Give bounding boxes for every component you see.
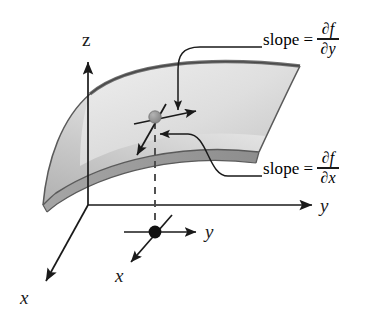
- plane-point-dot: [149, 226, 162, 239]
- surface-sheet: [43, 62, 300, 212]
- surface-point-dot: [149, 111, 161, 123]
- plane-point-y-label: y: [205, 222, 213, 241]
- equals-sign-bottom: =: [303, 159, 313, 179]
- plane-point-group: [124, 215, 196, 262]
- fraction-numerator-df: ∂f: [321, 150, 335, 166]
- x-axis: [46, 205, 88, 281]
- annotation-slope-dfdx: slope = ∂f ∂x: [263, 151, 339, 187]
- partial-derivative-figure: z y x y x slope = ∂f ∂y slope = ∂f ∂x: [0, 0, 380, 324]
- equals-sign-top: =: [303, 30, 313, 50]
- fraction-dfdy: ∂f ∂y: [317, 21, 339, 57]
- slope-word-top: slope: [263, 30, 299, 50]
- plane-point-x-label: x: [115, 266, 123, 285]
- slope-word-bottom: slope: [263, 159, 299, 179]
- fraction-numerator-df: ∂f: [321, 21, 335, 37]
- fraction-denominator-dx: ∂x: [319, 170, 336, 186]
- x-axis-label: x: [20, 288, 28, 307]
- y-axis-label: y: [320, 196, 328, 215]
- fraction-denominator-dy: ∂y: [319, 41, 336, 57]
- fraction-dfdx: ∂f ∂x: [317, 150, 339, 186]
- plane-point-x-arrow: [131, 215, 172, 262]
- annotation-slope-dfdy: slope = ∂f ∂y: [263, 22, 339, 58]
- z-axis-label: z: [82, 30, 90, 49]
